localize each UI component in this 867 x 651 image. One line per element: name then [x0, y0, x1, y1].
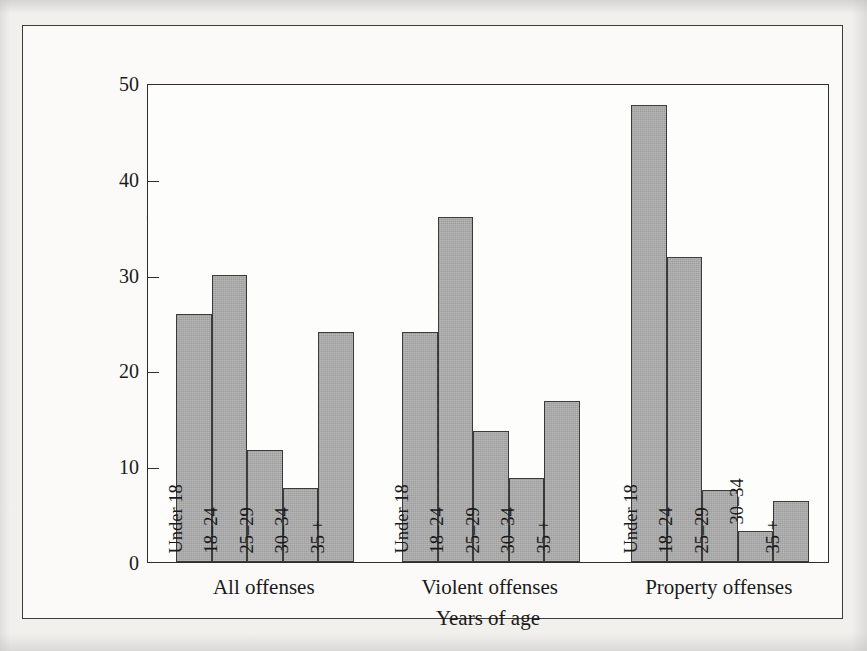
y-axis-tick-10: [148, 468, 159, 469]
scanned-page-background: Percent of total arrests 01020304050 Und…: [0, 0, 867, 651]
bar: Under 18: [402, 332, 438, 562]
figure-frame: Percent of total arrests 01020304050 Und…: [22, 25, 843, 619]
y-tick-label-30: 30: [83, 266, 139, 286]
bar: Under 18: [176, 314, 212, 562]
bar: 18–24: [438, 217, 474, 562]
y-axis-tick-40: [148, 181, 159, 182]
y-tick-label-40: 40: [83, 170, 139, 190]
plot-area: Under 1818–2425–2930–3435 +Under 1818–24…: [147, 84, 829, 563]
y-tick-label-10: 10: [83, 457, 139, 477]
bar-age-label: Under 18: [392, 484, 411, 553]
bar: 30–34: [283, 488, 319, 562]
y-axis-tick-30: [148, 277, 159, 278]
bar-age-label: Under 18: [166, 484, 185, 553]
bar: 25–29: [702, 490, 738, 562]
bar: 25–29: [247, 450, 283, 562]
x-axis-title: Years of age: [147, 606, 829, 630]
bar: Under 18: [631, 105, 667, 562]
bar: 35 +: [773, 501, 809, 562]
bar-age-label: Under 18: [621, 484, 640, 553]
x-group-label-all-offenses: All offenses: [213, 575, 315, 599]
x-axis-group-labels: All offensesViolent offensesProperty off…: [147, 575, 829, 605]
bar: 18–24: [667, 257, 703, 562]
bar: 35 +: [318, 332, 354, 562]
y-tick-label-20: 20: [83, 361, 139, 381]
y-axis-tick-20: [148, 372, 159, 373]
x-group-label-violent-offenses: Violent offenses: [421, 575, 558, 599]
bar: 25–29: [473, 431, 509, 562]
y-tick-label-0: 0: [83, 553, 139, 573]
bar: 35 +: [544, 401, 580, 562]
bar: 18–24: [212, 275, 248, 562]
y-tick-label-50: 50: [83, 74, 139, 94]
bar: 30–34: [738, 531, 774, 562]
y-axis-tick-labels: 01020304050: [83, 84, 139, 563]
x-group-label-property-offenses: Property offenses: [645, 575, 792, 599]
bar: 30–34: [509, 478, 545, 562]
